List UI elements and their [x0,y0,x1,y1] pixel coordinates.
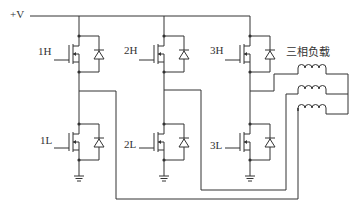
switch-label-2l: 2L [124,138,136,150]
load-label: 三相负载 [286,43,330,59]
switch-label-1l: 1L [40,134,52,146]
mosfet-1l [54,122,104,161]
mosfet-3h [225,34,275,73]
mosfet-3l [225,122,275,161]
inverter-circuit [0,0,356,213]
supply-label: +V [10,8,24,20]
coil-1 [298,65,348,75]
coil-2 [298,86,348,95]
switch-label-3l: 3L [210,139,222,151]
switch-label-2h: 2H [124,44,137,56]
switch-label-1h: 1H [38,45,51,57]
switch-label-3h: 3H [210,44,223,56]
coil-3 [298,105,348,115]
mosfet-2l [139,122,189,161]
mosfet-1h [54,34,104,73]
mosfet-2h [139,34,189,73]
